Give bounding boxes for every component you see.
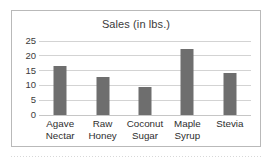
y-axis-tick-label: 25 [12, 36, 36, 46]
plot-area [39, 41, 251, 115]
bar-slot [81, 41, 123, 115]
category-label-line2: Nectar [39, 130, 81, 142]
category-label-line2: Syrup [166, 130, 208, 142]
bar[interactable] [138, 87, 151, 115]
bar-slot [209, 41, 251, 115]
bars-layer [39, 41, 251, 115]
bar[interactable] [54, 66, 67, 115]
chart-frame: Sales (in lbs.) 0510152025 AgaveNectarRa… [11, 10, 261, 147]
bottom-dotted-rule [11, 156, 261, 157]
category-label-line1: Maple [174, 118, 201, 129]
category-label-line1: Coconut [127, 118, 164, 129]
y-axis-tick-label: 20 [12, 51, 36, 61]
y-axis-tick-label: 5 [12, 95, 36, 105]
chart-screenshot: Sales (in lbs.) 0510152025 AgaveNectarRa… [0, 0, 275, 166]
category-label-line2: Sugar [124, 130, 166, 142]
x-axis-category-label: RawHoney [81, 118, 123, 141]
y-axis: 0510152025 [12, 41, 36, 115]
x-axis-category-label: AgaveNectar [39, 118, 81, 141]
bar[interactable] [223, 73, 236, 115]
x-axis: AgaveNectarRawHoneyCoconutSugarMapleSyru… [39, 118, 251, 146]
x-axis-category-label: MapleSyrup [166, 118, 208, 141]
y-axis-tick-label: 0 [12, 110, 36, 120]
bar-slot [39, 41, 81, 115]
bar-slot [166, 41, 208, 115]
category-label-line1: Stevia [216, 118, 243, 129]
bar[interactable] [96, 77, 109, 115]
y-axis-tick-label: 10 [12, 81, 36, 91]
plot-wrapper: 0510152025 AgaveNectarRawHoneyCoconutSug… [12, 41, 260, 146]
category-label-line1: Raw [93, 118, 113, 129]
chart-title: Sales (in lbs.) [12, 18, 260, 30]
bar-slot [124, 41, 166, 115]
category-label-line1: Agave [46, 118, 74, 129]
bar[interactable] [181, 49, 194, 115]
y-axis-tick-label: 15 [12, 66, 36, 76]
category-label-line2: Honey [81, 130, 123, 142]
x-axis-category-label: CoconutSugar [124, 118, 166, 141]
x-axis-category-label: Stevia [209, 118, 251, 130]
